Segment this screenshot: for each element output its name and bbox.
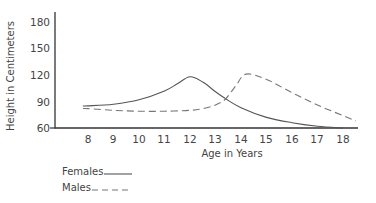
y-tick-60: 60 xyxy=(37,122,50,134)
x-tick-9: 9 xyxy=(110,133,117,145)
x-tick-10: 10 xyxy=(132,133,145,145)
x-tick-12: 12 xyxy=(183,133,196,145)
legend: Females Males xyxy=(62,166,132,193)
males-line xyxy=(83,74,356,121)
x-tick-8: 8 xyxy=(85,133,92,145)
legend-males-label: Males xyxy=(62,182,91,193)
y-tick-90: 90 xyxy=(37,96,50,108)
x-tick-17: 17 xyxy=(310,133,323,145)
y-tick-180: 180 xyxy=(30,16,50,28)
x-tick-labels: 8 9 10 11 12 13 14 15 16 17 18 xyxy=(85,133,350,145)
x-tick-18: 18 xyxy=(336,133,349,145)
x-tick-15: 15 xyxy=(259,133,272,145)
y-tick-labels: 180 150 120 90 60 xyxy=(30,16,50,134)
x-tick-13: 13 xyxy=(208,133,221,145)
x-tick-16: 16 xyxy=(285,133,299,145)
y-tick-120: 120 xyxy=(30,69,50,81)
legend-females-label: Females xyxy=(62,166,103,177)
height-by-age-chart: Height in Centimeters 180 150 120 90 60 … xyxy=(0,0,376,203)
x-axis-title: Age in Years xyxy=(201,148,262,159)
y-axis-title: Height in Centimeters xyxy=(5,21,16,131)
females-line xyxy=(83,77,343,128)
x-tick-14: 14 xyxy=(234,133,248,145)
y-tick-150: 150 xyxy=(30,42,50,54)
x-tick-11: 11 xyxy=(157,133,170,145)
